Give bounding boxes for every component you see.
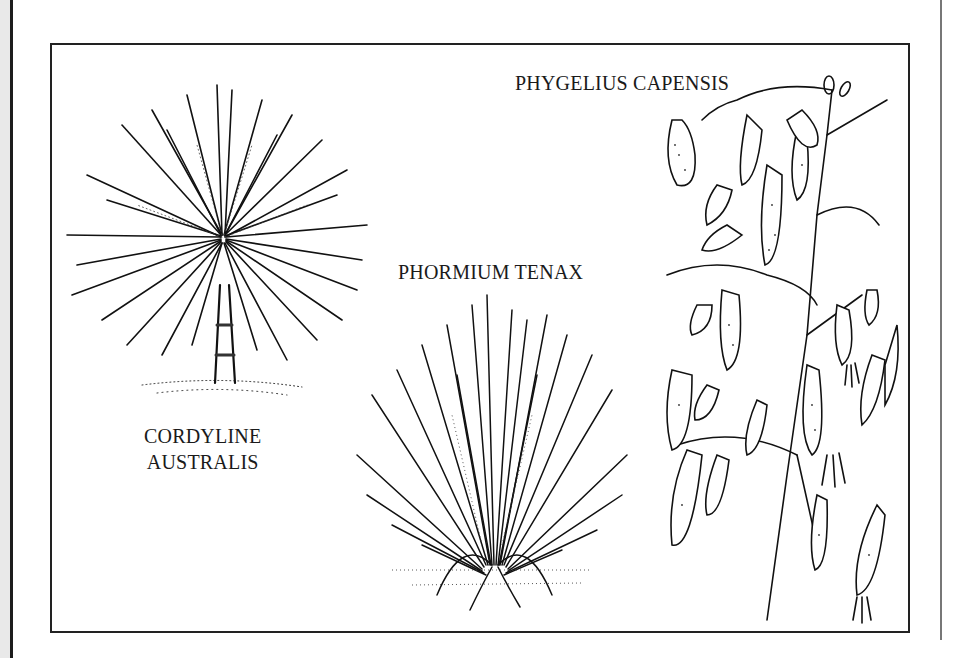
page-edge-strip xyxy=(0,0,10,658)
page-margin-line xyxy=(940,0,942,640)
cordyline-caption-line1: CORDYLINE xyxy=(144,423,261,449)
illustration-frame: CORDYLINE AUSTRALIS PHORMIUM TENAX xyxy=(50,43,910,633)
cordyline-caption: CORDYLINE AUSTRALIS xyxy=(144,423,261,475)
phormium-caption: PHORMIUM TENAX xyxy=(398,259,583,285)
phygelius-caption: PHYGELIUS CAPENSIS xyxy=(515,70,729,96)
phygelius-capensis-drawing xyxy=(657,75,897,635)
page-binding-line xyxy=(10,0,13,658)
phormium-tenax-drawing xyxy=(352,295,632,615)
cordyline-australis-drawing xyxy=(67,85,367,405)
cordyline-caption-line2: AUSTRALIS xyxy=(144,449,261,475)
